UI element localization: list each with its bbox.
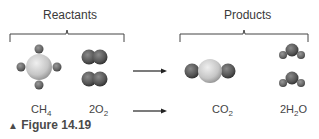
formula-2o2: 2O2: [89, 103, 108, 118]
reactants-bracket: [10, 30, 124, 42]
formula-co2: CO2: [212, 103, 233, 118]
products-bracket: [180, 30, 308, 42]
water-molecules-icon: [279, 44, 305, 88]
formula-ch4: CH4: [31, 103, 51, 118]
reactants-label: Reactants: [43, 8, 97, 22]
methane-molecule-icon: [17, 45, 62, 90]
reaction-arrow-icon: [133, 69, 167, 114]
formula-2h2o: 2H2O: [280, 103, 307, 118]
oxygen-molecules-icon: [82, 50, 108, 87]
carbon-dioxide-molecule-icon: [185, 59, 236, 83]
figure-caption: ▲ Figure 14.19: [8, 118, 91, 132]
products-label: Products: [224, 8, 271, 22]
triangle-icon: ▲: [8, 120, 18, 131]
